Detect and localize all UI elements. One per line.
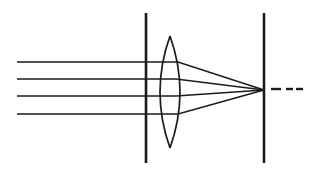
- optics-diagram-svg: [0, 0, 311, 172]
- optics-figure: [0, 0, 311, 172]
